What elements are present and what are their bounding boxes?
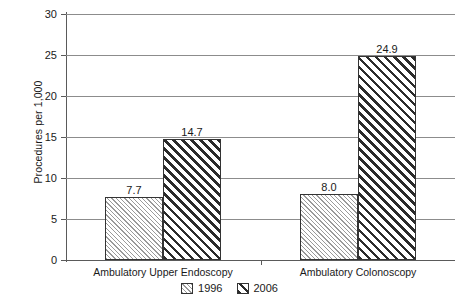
legend-item-1996[interactable]: 1996: [181, 283, 222, 294]
category-axis: Ambulatory Upper Endoscopy Ambulatory Co…: [66, 260, 455, 284]
chart-legend: 1996 2006: [0, 283, 459, 294]
y-axis-tick-label: 10: [45, 172, 57, 184]
bar-value-label: 24.9: [376, 43, 397, 55]
y-axis-tick-mark: [61, 178, 66, 179]
category-separator-tick: [261, 260, 262, 265]
category-label-ambulatory-upper-endoscopy: Ambulatory Upper Endoscopy: [93, 266, 233, 278]
y-axis-tick-label: 0: [51, 254, 57, 266]
y-axis-tick-mark: [61, 55, 66, 56]
bar-value-label: 7.7: [126, 184, 141, 196]
y-axis-tick-mark: [61, 219, 66, 220]
bar-value-label: 8.0: [321, 181, 336, 193]
y-axis-tick-mark: [61, 96, 66, 97]
bar-value-label: 14.7: [181, 126, 202, 138]
gridline: [66, 14, 455, 15]
legend-label-1996: 1996: [198, 283, 222, 294]
bar-ambulatory-colonoscopy-1996[interactable]: 8.0: [300, 194, 358, 260]
legend-item-2006[interactable]: 2006: [237, 283, 278, 294]
plot-area: 051015202530 7.714.78.024.9: [66, 14, 455, 260]
y-axis-tick-label: 5: [51, 213, 57, 225]
bar-ambulatory-upper-endoscopy-1996[interactable]: 7.7: [105, 197, 163, 260]
legend-swatch-2006-icon: [237, 283, 249, 294]
y-axis-tick-mark: [61, 14, 66, 15]
y-axis-tick-mark: [61, 137, 66, 138]
y-axis-tick-label: 30: [45, 8, 57, 20]
y-axis-tick-label: 25: [45, 49, 57, 61]
bar-ambulatory-upper-endoscopy-2006[interactable]: 14.7: [163, 139, 221, 260]
legend-swatch-1996-icon: [181, 283, 193, 294]
y-axis-tick-label: 20: [45, 90, 57, 102]
bar-ambulatory-colonoscopy-2006[interactable]: 24.9: [358, 56, 416, 260]
bar-chart: Procedures per 1,000 051015202530 7.714.…: [0, 0, 459, 305]
y-axis-tick-label: 15: [45, 131, 57, 143]
category-label-ambulatory-colonoscopy: Ambulatory Colonoscopy: [300, 266, 417, 278]
legend-label-2006: 2006: [254, 283, 278, 294]
y-axis-title: Procedures per 1,000: [32, 42, 44, 222]
